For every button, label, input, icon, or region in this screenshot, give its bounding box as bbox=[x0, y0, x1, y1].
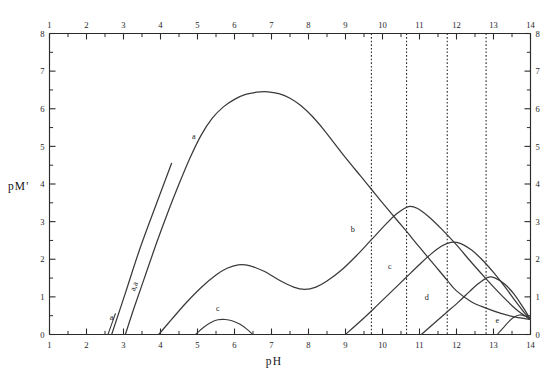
y-tick-label-left-5: 5 bbox=[40, 142, 44, 152]
x-tick-label-top-11: 11 bbox=[415, 20, 423, 30]
curve-label-a-a-1: a,a bbox=[128, 280, 140, 292]
x-axis-title: pH bbox=[266, 355, 282, 368]
y-tick-label-left-7: 7 bbox=[40, 66, 45, 76]
x-tick-label-bottom-6: 6 bbox=[232, 340, 237, 350]
x-tick-label-bottom-7: 7 bbox=[269, 340, 274, 350]
x-tick-label-bottom-12: 12 bbox=[452, 340, 461, 350]
x-tick-label-top-3: 3 bbox=[121, 20, 125, 30]
axis-frame bbox=[50, 34, 531, 335]
x-tick-label-top-10: 10 bbox=[378, 20, 387, 30]
curve-label-d-6: d bbox=[425, 293, 429, 302]
y-tick-label-right-2: 2 bbox=[536, 254, 540, 264]
curve-label-e-7: e bbox=[495, 316, 499, 325]
y-tick-label-right-4: 4 bbox=[536, 179, 541, 189]
x-tick-label-top-5: 5 bbox=[195, 20, 199, 30]
curve-label-c-4: c bbox=[388, 262, 392, 271]
x-tick-label-bottom-3: 3 bbox=[121, 340, 125, 350]
curve-d bbox=[421, 277, 530, 335]
x-tick-label-top-1: 1 bbox=[47, 20, 51, 30]
x-tick-label-top-14: 14 bbox=[526, 20, 535, 30]
vertical-dotted-lines-group bbox=[371, 34, 486, 335]
y-tick-label-left-4: 4 bbox=[40, 179, 45, 189]
x-tick-label-bottom-10: 10 bbox=[378, 340, 387, 350]
x-tick-label-bottom-5: 5 bbox=[195, 340, 199, 350]
curve-label-c-5: c bbox=[216, 304, 220, 313]
x-tick-label-bottom-1: 1 bbox=[47, 340, 51, 350]
x-tick-label-bottom-2: 2 bbox=[84, 340, 88, 350]
pm-ph-plot: 1234567891011121314123456789101112131487… bbox=[0, 0, 548, 372]
y-tick-label-left-3: 3 bbox=[40, 217, 44, 227]
x-tick-label-top-13: 13 bbox=[489, 20, 498, 30]
y-tick-label-left-6: 6 bbox=[40, 104, 45, 114]
curve-label-b-3: b bbox=[351, 225, 355, 234]
x-tick-label-bottom-14: 14 bbox=[526, 340, 535, 350]
x-tick-label-top-7: 7 bbox=[269, 20, 274, 30]
y-tick-label-left-0: 0 bbox=[40, 330, 44, 340]
curve-c-lower bbox=[196, 319, 255, 336]
x-tick-label-top-8: 8 bbox=[306, 20, 310, 30]
x-tick-label-bottom-13: 13 bbox=[489, 340, 498, 350]
chart-figure: 1234567891011121314123456789101112131487… bbox=[0, 0, 548, 372]
y-tick-label-right-7: 7 bbox=[536, 66, 541, 76]
curve-e bbox=[497, 315, 530, 335]
x-tick-label-top-6: 6 bbox=[232, 20, 237, 30]
x-tick-label-top-9: 9 bbox=[343, 20, 347, 30]
curves-group bbox=[108, 92, 531, 337]
x-tick-label-top-4: 4 bbox=[158, 20, 163, 30]
curve-label-a-2: a bbox=[110, 313, 114, 322]
x-tick-label-bottom-8: 8 bbox=[306, 340, 310, 350]
x-tick-label-top-2: 2 bbox=[84, 20, 88, 30]
y-axis-title: pM' bbox=[8, 180, 29, 193]
curve-label-a-0: a bbox=[192, 132, 196, 141]
axis-ticks-group bbox=[50, 34, 531, 335]
x-tick-label-bottom-9: 9 bbox=[343, 340, 347, 350]
x-tick-label-bottom-11: 11 bbox=[415, 340, 423, 350]
x-tick-label-top-12: 12 bbox=[452, 20, 461, 30]
curve-b bbox=[159, 206, 531, 334]
y-tick-label-right-5: 5 bbox=[536, 142, 540, 152]
y-tick-label-right-8: 8 bbox=[536, 29, 540, 39]
axis-tick-labels-group: 1234567891011121314123456789101112131487… bbox=[40, 20, 540, 350]
y-tick-label-right-6: 6 bbox=[536, 104, 541, 114]
y-tick-label-right-3: 3 bbox=[536, 217, 540, 227]
y-tick-label-right-0: 0 bbox=[536, 330, 540, 340]
y-tick-label-left-2: 2 bbox=[40, 254, 44, 264]
y-tick-label-left-8: 8 bbox=[40, 29, 44, 39]
y-tick-label-left-1: 1 bbox=[40, 292, 44, 302]
curve-a bbox=[125, 92, 530, 335]
x-tick-label-bottom-4: 4 bbox=[158, 340, 163, 350]
y-tick-label-right-1: 1 bbox=[536, 292, 540, 302]
curve-a,a bbox=[112, 163, 172, 334]
